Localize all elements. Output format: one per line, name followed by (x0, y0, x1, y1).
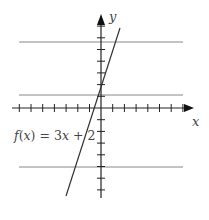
x-axis (12, 104, 194, 112)
y-axis-arrow-icon (97, 14, 105, 25)
y-axis-label: y (108, 9, 117, 24)
function-line (66, 28, 120, 196)
x-axis-arrow-icon (184, 104, 194, 112)
function-label: f(x) = 3x + 2 (13, 128, 95, 143)
graph-canvas: y x f(x) = 3x + 2 (0, 0, 209, 220)
x-axis-label: x (192, 114, 200, 129)
